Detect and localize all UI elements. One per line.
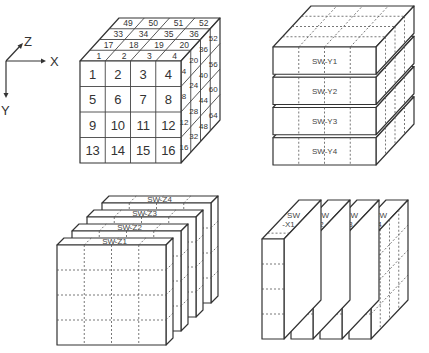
side-cell-number: 52 — [209, 34, 218, 43]
cell-number: 16 — [161, 143, 175, 158]
axis-indicator: X Y Z — [1, 34, 59, 118]
side-cell-number: 60 — [209, 85, 218, 94]
z-slab-cube: SW-Z4SW-Z3SW-Z2SW-Z1 — [57, 195, 218, 346]
slab-front — [262, 239, 284, 339]
cell-number: 12 — [161, 118, 175, 133]
side-cell-number: 16 — [179, 143, 188, 152]
z-axis-label: Z — [24, 34, 32, 49]
z-axis-arrow — [6, 45, 21, 61]
cell-number: 2 — [114, 67, 121, 82]
slab-label: SW-Z4 — [147, 195, 172, 204]
y-arrowhead-icon — [4, 93, 9, 98]
cell-number: 13 — [85, 143, 99, 158]
side-cell-number: 4 — [182, 67, 187, 76]
diagram-canvas: X Y Z 1234567891011121314151612341718192… — [0, 0, 429, 353]
cell-number: 6 — [114, 92, 121, 107]
y-slab-cube: SW-Y4SW-Y3SW-Y2SW-Y1 — [273, 6, 414, 165]
x-slab-cube: SW-X4SW-X3SW-X2SW-X1 — [262, 200, 408, 339]
top-cell-number: 1 — [96, 51, 101, 61]
side-cell-number: 8 — [182, 92, 187, 101]
side-cell-number: 40 — [199, 71, 208, 80]
side-cell-number: 12 — [179, 118, 188, 127]
numbered-cube: 1234567891011121314151612341718192033343… — [80, 18, 220, 163]
side-cell-number: 24 — [189, 81, 198, 90]
top-cell-number: 34 — [139, 29, 149, 39]
slab-label: SW-Z3 — [132, 209, 157, 218]
side-cell-number: 64 — [209, 111, 218, 120]
slab-label: SW-Y2 — [312, 87, 338, 96]
top-cell-number: 35 — [164, 29, 174, 39]
y-axis-label: Y — [1, 103, 10, 118]
cell-number: 9 — [89, 118, 96, 133]
side-cell-number: 28 — [189, 107, 198, 116]
side-cell-number: 48 — [199, 122, 208, 131]
z-slab: SW-Z1 — [57, 237, 173, 346]
cell-number: 4 — [165, 67, 172, 82]
cell-number: 11 — [136, 118, 150, 133]
slab-label: SW-Z2 — [117, 223, 142, 232]
x-axis-label: X — [50, 54, 59, 69]
side-cell-number: 44 — [199, 96, 208, 105]
top-cell-number: 2 — [122, 51, 127, 61]
top-cell-number: 17 — [104, 40, 114, 50]
top-cell-number: 18 — [129, 40, 139, 50]
side-cell-number: 36 — [199, 45, 208, 54]
top-cell-number: 51 — [174, 18, 184, 28]
top-cell-number: 20 — [180, 40, 190, 50]
slab-label: SW-Y3 — [312, 117, 338, 126]
top-cell-number: 50 — [149, 18, 159, 28]
cell-number: 1 — [89, 67, 96, 82]
slab-label: -X1 — [282, 220, 295, 229]
cell-number: 14 — [111, 143, 125, 158]
side-cell-number: 20 — [189, 56, 198, 65]
side-cell-number: 56 — [209, 60, 218, 69]
top-cell-number: 19 — [154, 40, 164, 50]
cell-number: 7 — [140, 92, 147, 107]
cell-number: 3 — [140, 67, 147, 82]
cell-number: 10 — [111, 118, 125, 133]
slab-label: SW-Z1 — [102, 237, 127, 246]
slab-label: SW-Y4 — [312, 147, 338, 156]
side-cell-number: 32 — [189, 132, 198, 141]
slab-label: SW-Y1 — [312, 57, 338, 66]
cell-number: 8 — [165, 92, 172, 107]
top-cell-number: 49 — [123, 18, 133, 28]
top-cell-number: 4 — [172, 51, 177, 61]
cell-number: 5 — [89, 92, 96, 107]
x-arrowhead-icon — [41, 59, 46, 64]
top-cell-number: 52 — [199, 18, 209, 28]
top-cell-number: 36 — [189, 29, 199, 39]
top-cell-number: 33 — [114, 29, 124, 39]
slab-label: SW — [287, 211, 300, 220]
cell-number: 15 — [136, 143, 150, 158]
top-cell-number: 3 — [147, 51, 152, 61]
